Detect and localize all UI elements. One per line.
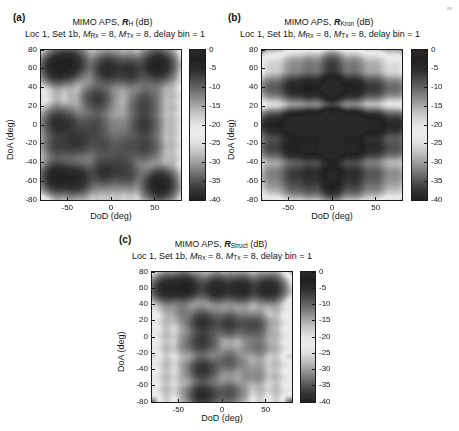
panel-a-ytick-label: 80 <box>15 45 37 54</box>
panel-b-colorbar-tick-label: -30 <box>431 157 455 166</box>
panel-b-ytick-mark <box>262 125 265 126</box>
panel-c-colorbar-tick-label: -40 <box>319 397 343 406</box>
panel-a-colorbar-tick-mark <box>202 50 205 51</box>
panel-a-ytick-mark <box>41 68 44 69</box>
panel-c-xtick-label: -50 <box>163 405 193 414</box>
panel-b-ytick-mark <box>262 181 265 182</box>
panel-b-ytick-label: 0 <box>236 120 258 129</box>
panel-b-colorbar-tick-mark <box>424 106 427 107</box>
panel-b-ytick-label: 80 <box>236 45 258 54</box>
panel-a-colorbar-tick-mark <box>202 68 205 69</box>
panel-b-xtick-mark <box>332 197 333 200</box>
panel-b-colorbar-tick-mark <box>424 143 427 144</box>
panel-c-colorbar-tick-label: -35 <box>319 380 343 389</box>
panel-b-titles: MIMO APS, RKron (dB) Loc 1, Set 1b, MRx … <box>240 17 418 40</box>
panel-a-colorbar-tick-label: -5 <box>209 63 233 72</box>
panel-b-ytick-mark <box>262 87 265 88</box>
panel-a-colorbar-tick-label: -35 <box>209 176 233 185</box>
panel-a-ytick-mark <box>41 162 44 163</box>
panel-c-ytick-label: 20 <box>126 315 148 324</box>
panel-a-ytick-mark <box>41 181 44 182</box>
panel-a-ytick-label: -40 <box>15 157 37 166</box>
panel-c-ylabel: DoA (deg) <box>116 331 126 372</box>
panel-b-ytick-mark <box>262 143 265 144</box>
panel-a-ytick-label: -80 <box>15 195 37 204</box>
panel-c-colorbar-tick-mark <box>312 369 315 370</box>
panel-a-ylabel: DoA (deg) <box>5 119 15 160</box>
panel-b-colorbar-tick-label: -25 <box>431 138 455 147</box>
panel-a-xlabel: DoD (deg) <box>41 211 181 221</box>
panel-c-title: MIMO APS, RStruct (dB) <box>132 239 310 251</box>
panel-b-heatmap <box>262 50 402 200</box>
panel-c-xtick-label: 50 <box>251 405 281 414</box>
panel-c-colorbar-tick-mark <box>312 402 315 403</box>
panel-c-colorbar-tick-mark <box>312 337 315 338</box>
panel-c-ytick-mark <box>152 385 155 386</box>
panel-a-ytick-label: 40 <box>15 82 37 91</box>
panel-b-xlabel: DoD (deg) <box>262 211 402 221</box>
panel-c-ytick-mark <box>152 272 155 273</box>
panel-a-colorbar-tick-mark <box>202 181 205 182</box>
panel-a-heatmap <box>41 50 181 200</box>
panel-b-xtick-mark <box>288 197 289 200</box>
panel-a-colorbar-tick-mark <box>202 200 205 201</box>
panel-a-ytick-label: -20 <box>15 138 37 147</box>
figure-root: (a) MIMO APS, RH (dB) Loc 1, Set 1b, MRx… <box>0 0 459 431</box>
panel-a-ytick-mark <box>41 143 44 144</box>
panel-b-ytick-label: -80 <box>236 195 258 204</box>
panel-a-ytick-label: 0 <box>15 120 37 129</box>
panel-c-colorbar-tick-mark <box>312 320 315 321</box>
panel-b-ytick-label: -60 <box>236 176 258 185</box>
panel-b-colorbar-tick-label: -35 <box>431 176 455 185</box>
panel-b-colorbar-tick-mark <box>424 68 427 69</box>
panel-b-ytick-label: 60 <box>236 63 258 72</box>
panel-a-colorbar-tick-mark <box>202 125 205 126</box>
panel-c-plot-area <box>151 271 293 403</box>
panel-a-colorbar-tick-label: -10 <box>209 82 233 91</box>
panel-a-colorbar-tick-label: -25 <box>209 138 233 147</box>
panel-a-xtick-label: 0 <box>96 203 126 212</box>
panel-a-ytick-label: 20 <box>15 101 37 110</box>
panel-c-subtitle: Loc 1, Set 1b, MRx = 8, MTx = 8, delay b… <box>132 251 310 263</box>
panel-c-colorbar-tick-mark <box>312 385 315 386</box>
panel-a-colorbar-tick-label: -30 <box>209 157 233 166</box>
panel-c-xlabel: DoD (deg) <box>152 413 292 423</box>
panel-b-colorbar-tick-mark <box>424 162 427 163</box>
panel-a-xtick-mark <box>67 197 68 200</box>
panel-c-ytick-mark <box>152 320 155 321</box>
panel-b-colorbar-tick-label: -15 <box>431 101 455 110</box>
panel-b-colorbar-tick-label: -5 <box>431 63 455 72</box>
panel-a-xtick-label: -50 <box>52 203 82 212</box>
panel-a-ytick-mark <box>41 106 44 107</box>
panel-a-ytick-mark <box>41 87 44 88</box>
panel-b-colorbar-tick-label: -40 <box>431 195 455 204</box>
panel-b-colorbar-tick-mark <box>424 181 427 182</box>
panel-a-colorbar-tick-mark <box>202 87 205 88</box>
panel-c-xtick-mark <box>265 399 266 402</box>
panel-c-colorbar-tick-label: -5 <box>319 283 343 292</box>
panel-b-colorbar-tick-mark <box>424 50 427 51</box>
panel-c-ytick-mark <box>152 337 155 338</box>
panel-c-ytick-mark <box>152 304 155 305</box>
panel-c-xtick-label: 0 <box>207 405 237 414</box>
panel-a-title: MIMO APS, RH (dB) <box>25 17 200 29</box>
panel-a-titles: MIMO APS, RH (dB) Loc 1, Set 1b, MRx = 8… <box>25 17 200 40</box>
panel-b-xtick-label: 0 <box>317 203 347 212</box>
panel-c-ytick-label: -40 <box>126 364 148 373</box>
panel-a-colorbar-tick-mark <box>202 162 205 163</box>
panel-c-ytick-mark <box>152 369 155 370</box>
panel-c-colorbar-tick-label: 0 <box>319 267 343 276</box>
panel-c-colorbar-tick-label: -10 <box>319 299 343 308</box>
panel-a-xtick-label: 50 <box>140 203 170 212</box>
panel-a-ytick-mark <box>41 50 44 51</box>
panel-c-ytick-label: -60 <box>126 380 148 389</box>
panel-c-colorbar-tick-mark <box>312 353 315 354</box>
panel-a-ytick-label: 60 <box>15 63 37 72</box>
panel-b-colorbar-tick-mark <box>424 200 427 201</box>
panel-c-heatmap <box>152 272 292 402</box>
panel-b-ytick-label: -40 <box>236 157 258 166</box>
panel-b-plot-area <box>261 49 403 201</box>
panel-a-colorbar-tick-label: -15 <box>209 101 233 110</box>
panel-a-ytick-label: -60 <box>15 176 37 185</box>
panel-c-colorbar-tick-mark <box>312 288 315 289</box>
